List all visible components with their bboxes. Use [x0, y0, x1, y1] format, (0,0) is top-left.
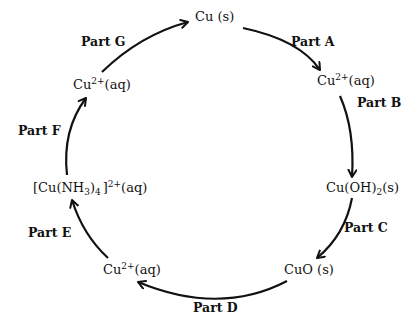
- label-part-e: Part E: [28, 225, 71, 241]
- species-cuo: CuO (s): [284, 262, 334, 278]
- species-text: [Cu(NH: [33, 180, 84, 195]
- arrow-part-f: [66, 98, 86, 175]
- cycle-arrows: [0, 0, 420, 326]
- species-text: CuO (s): [284, 262, 334, 277]
- state-text: (aq): [105, 77, 131, 92]
- species-text: Cu: [73, 77, 91, 92]
- species-text: Cu (s): [195, 9, 234, 24]
- charge-superscript: 2+: [121, 261, 134, 271]
- charge-superscript: 2+: [108, 179, 121, 189]
- charge-superscript: 2+: [91, 76, 104, 86]
- species-cu-solid: Cu (s): [195, 9, 234, 25]
- species-text: Cu: [317, 73, 335, 88]
- label-part-c: Part C: [344, 220, 388, 236]
- species-cu2-aq-after-d: Cu2+(aq): [103, 262, 161, 278]
- arrow-part-e: [72, 200, 108, 258]
- state-text: (s): [382, 180, 399, 195]
- charge-superscript: 2+: [335, 72, 348, 82]
- state-text: (aq): [121, 180, 147, 195]
- label-part-d: Part D: [193, 300, 238, 316]
- state-text: (aq): [349, 73, 375, 88]
- arrow-part-b: [340, 96, 353, 177]
- state-text: (aq): [135, 262, 161, 277]
- subscript: 4: [95, 187, 101, 197]
- label-part-b: Part B: [357, 95, 401, 111]
- label-part-f: Part F: [18, 123, 61, 139]
- species-cu2-aq-after-f: Cu2+(aq): [73, 77, 131, 93]
- species-tetraammine-copper: [Cu(NH3)4]2+(aq): [33, 180, 147, 196]
- species-text: Cu: [103, 262, 121, 277]
- species-cu2-aq-after-a: Cu2+(aq): [317, 73, 375, 89]
- label-part-a: Part A: [291, 34, 335, 50]
- arrow-part-d: [138, 281, 287, 299]
- species-text: Cu(OH): [326, 180, 376, 195]
- species-cu-oh2: Cu(OH)2(s): [326, 180, 399, 196]
- copper-cycle-diagram: Cu (s) Cu2+(aq) Cu(OH)2(s) CuO (s) Cu2+(…: [0, 0, 420, 326]
- label-part-g: Part G: [81, 34, 126, 50]
